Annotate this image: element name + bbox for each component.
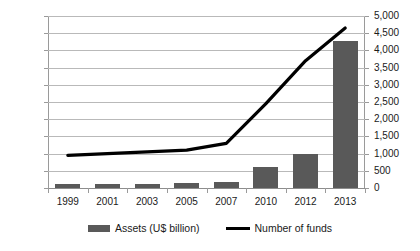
y-axis-left-tick (44, 102, 48, 103)
y-axis-right-tick-label: 500 (374, 166, 418, 176)
y-axis-right-tick-label: 3,000 (374, 80, 418, 90)
y-axis-left-tick (44, 50, 48, 51)
y-axis-left-tick (44, 136, 48, 137)
plot-area (48, 16, 365, 188)
y-axis-right-tick (365, 154, 369, 155)
x-axis-tick (207, 188, 208, 193)
y-axis-right-tick (365, 171, 369, 172)
y-axis-left-tick (44, 119, 48, 120)
x-axis-labels: 19992001200320052007201020122013 (48, 196, 365, 212)
line-series-number-of-funds (48, 16, 365, 188)
x-axis-tick (325, 188, 326, 193)
x-axis-label: 2010 (255, 196, 277, 207)
y-axis-right-tick (365, 33, 369, 34)
legend-item-number-of-funds: Number of funds (226, 222, 333, 234)
y-axis-left-tick (44, 85, 48, 86)
x-axis-label: 2012 (294, 196, 316, 207)
y-axis-right-tick (365, 188, 369, 189)
x-axis-label: 2001 (96, 196, 118, 207)
y-axis-right-tick-label: 1,500 (374, 131, 418, 141)
x-axis-tick (286, 188, 287, 193)
y-axis-right-tick (365, 68, 369, 69)
x-axis-label: 2005 (176, 196, 198, 207)
x-axis-tick (246, 188, 247, 193)
legend-label-number-of-funds: Number of funds (255, 222, 333, 234)
y-axis-right-tick-label: 2,000 (374, 114, 418, 124)
y-axis-right-tick-label: 4,000 (374, 45, 418, 55)
y-axis-right-tick-label: 2,500 (374, 97, 418, 107)
y-axis-left-tick (44, 188, 48, 189)
y-axis-right-tick-label: 3,500 (374, 63, 418, 73)
bar-swatch-icon (88, 225, 110, 232)
y-axis-right-tick (365, 119, 369, 120)
x-axis-tick (48, 188, 49, 193)
x-axis-tick (167, 188, 168, 193)
y-axis-right-tick (365, 136, 369, 137)
x-axis-label: 2007 (215, 196, 237, 207)
chart-container: 19992001200320052007201020122013 Assets … (0, 0, 420, 251)
y-axis-right-tick-label: 0 (374, 183, 418, 193)
y-axis-right-tick-label: 5,000 (374, 11, 418, 21)
y-axis-right-tick (365, 16, 369, 17)
y-axis-left-tick (44, 16, 48, 17)
y-axis-right-tick (365, 50, 369, 51)
legend-item-assets: Assets (U$ billion) (88, 222, 200, 234)
y-axis-left-tick (44, 154, 48, 155)
y-axis-right-tick-label: 4,500 (374, 28, 418, 38)
y-axis-left-tick (44, 171, 48, 172)
y-axis-right-tick (365, 85, 369, 86)
chart-legend: Assets (U$ billion) Number of funds (0, 222, 420, 234)
x-axis-label: 2013 (334, 196, 356, 207)
x-axis-tick (127, 188, 128, 193)
y-axis-left-tick (44, 33, 48, 34)
x-axis-label: 1999 (57, 196, 79, 207)
legend-label-assets: Assets (U$ billion) (115, 222, 200, 234)
line-swatch-icon (226, 227, 250, 230)
y-axis-right-tick-label: 1,000 (374, 149, 418, 159)
y-axis-left-tick (44, 68, 48, 69)
y-axis-right-tick (365, 102, 369, 103)
x-axis-ticks (48, 188, 365, 193)
x-axis-tick (88, 188, 89, 193)
x-axis-label: 2003 (136, 196, 158, 207)
